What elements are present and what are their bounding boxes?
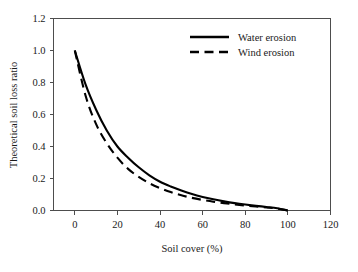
chart-figure: 0.00.20.40.60.81.01.2 020406080100120 Wa… bbox=[0, 0, 358, 272]
y-tick-label: 0.0 bbox=[32, 205, 45, 216]
y-axis-title: Theoretical soil loss ratio bbox=[8, 62, 19, 168]
x-tick-label: 80 bbox=[240, 219, 251, 230]
y-tick-label: 0.2 bbox=[32, 173, 45, 184]
x-tick-label: 0 bbox=[72, 219, 77, 230]
x-axis-title: Soil cover (%) bbox=[161, 243, 223, 255]
data-series-group bbox=[75, 51, 288, 211]
y-tick-label: 0.8 bbox=[32, 77, 45, 88]
x-axis-ticks: 020406080100120 bbox=[72, 211, 338, 230]
x-tick-label: 100 bbox=[280, 219, 296, 230]
legend-label-water-erosion: Water erosion bbox=[238, 32, 297, 43]
y-tick-label: 1.2 bbox=[32, 13, 45, 24]
x-tick-label: 120 bbox=[323, 219, 339, 230]
x-tick-label: 60 bbox=[197, 219, 208, 230]
x-tick-label: 40 bbox=[155, 219, 166, 230]
y-axis-ticks: 0.00.20.40.60.81.01.2 bbox=[32, 13, 53, 216]
x-tick-label: 20 bbox=[112, 219, 123, 230]
y-tick-label: 0.6 bbox=[32, 109, 45, 120]
legend-label-wind-erosion: Wind erosion bbox=[238, 47, 295, 58]
series-line-water-erosion bbox=[75, 51, 288, 211]
chart-legend: Water erosion Wind erosion bbox=[190, 32, 297, 58]
y-tick-label: 0.4 bbox=[32, 141, 46, 152]
chart-canvas: 0.00.20.40.60.81.01.2 020406080100120 Wa… bbox=[0, 0, 358, 272]
y-tick-label: 1.0 bbox=[32, 45, 45, 56]
